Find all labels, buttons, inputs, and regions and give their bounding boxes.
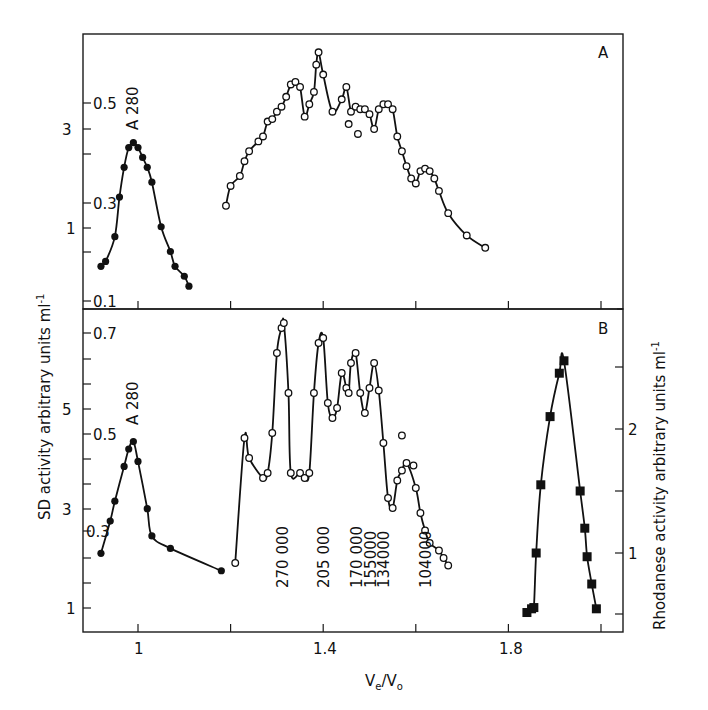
open-circle-marker [431,175,438,182]
open-circle-marker [237,173,244,180]
filled-square-marker [555,369,564,378]
filled-circle-marker [111,498,118,505]
open-circle-marker [352,350,359,357]
open-circle-marker [445,562,452,569]
mw-marker-label: 270 000 [274,526,292,588]
open-circle-marker [320,335,327,342]
open-circle-marker [399,432,406,439]
panel-a-letter: A [598,44,609,62]
open-circle-marker [325,400,332,407]
open-circle-marker [371,360,378,367]
open-circle-marker [338,370,345,377]
open-circle-marker [306,101,313,108]
open-circle-marker [389,505,396,512]
filled-circle-marker [148,179,155,186]
filled-square-marker [587,580,596,589]
filled-circle-marker [167,248,174,255]
open-circle-marker [260,133,267,140]
open-circle-marker [246,148,253,155]
open-circle-marker [287,470,294,477]
open-circle-marker [269,430,276,437]
open-circle-marker [297,84,304,91]
open-circle-marker [246,455,253,462]
open-circle-marker [394,133,401,140]
panel-a-frame [83,34,623,309]
open-circle-marker [223,202,230,209]
x-tick-label-1: 1 [134,640,144,658]
open-circle-marker [329,415,336,422]
filled-square-marker [576,487,585,496]
filled-circle-marker [130,438,137,445]
filled-circle-marker [218,567,225,574]
open-circle-marker [357,390,364,397]
filled-circle-marker [134,458,141,465]
open-circle-marker [315,49,322,56]
open-circle-marker [445,210,452,217]
x-axis-label: Ve/Vo [365,672,403,692]
open-circle-marker [301,113,308,120]
panel-b-a280-tick-03: 0.3 [86,523,110,541]
open-circle-marker [389,106,396,113]
open-circle-marker [482,245,489,252]
open-circle-marker [426,168,433,175]
filled-circle-marker [171,263,178,270]
filled-circle-marker [144,505,151,512]
open-circle-marker [399,148,406,155]
panel-b-right-tick-2: 2 [628,421,638,439]
filled-circle-marker [125,445,132,452]
panel-a-a280-tick-03: 0.3 [93,195,117,213]
open-circle-marker [436,188,443,195]
open-circle-marker [283,94,290,101]
filled-square-marker [583,552,592,561]
open-circle-marker [320,71,327,78]
open-circle-marker [278,103,285,110]
open-circle-marker [306,470,313,477]
open-circle-marker [380,440,387,447]
open-circle-marker [385,495,392,502]
open-circle-marker [440,555,447,562]
panel-a-a280-tick-05: 0.5 [93,95,117,113]
open-circle-marker [417,510,424,517]
filled-circle-marker [116,193,123,200]
panel-a-a280-tick-01: 0.1 [93,293,117,311]
open-circle-marker [436,547,443,554]
open-circle-marker [338,96,345,103]
open-circle-marker [362,410,369,417]
open-circle-marker [345,390,352,397]
panel-a-tick-1: 1 [66,220,76,238]
mw-marker-label: 104000 [417,531,435,588]
open-circle-marker [285,390,292,397]
filled-square-marker [532,549,541,558]
filled-circle-marker [139,154,146,161]
mw-marker-label: 205 000 [315,526,333,588]
filled-circle-marker [97,550,104,557]
filled-circle-marker [111,233,118,240]
filled-circle-marker [181,273,188,280]
molecular-weight-markers: 270 000205 000170 000155000134000104000 [274,526,436,588]
a280-label-panel-a: A 280 [124,86,142,130]
filled-circle-marker [121,463,128,470]
panel-a-tick-3: 3 [62,121,72,139]
figure: A B A 280 A 280 3 1 0.5 0.3 0.1 5 3 1 0.… [0,0,708,710]
open-circle-marker [366,111,373,118]
open-circle-marker [403,460,410,467]
filled-circle-marker [121,164,128,171]
filled-circle-marker [148,532,155,539]
open-circle-marker [399,467,406,474]
open-circle-marker [355,131,362,138]
open-circle-marker [366,385,373,392]
x-tick-label-1-4: 1.4 [313,640,337,658]
series-line [226,52,485,248]
left-axis-label: SD activity arbitrary units ml-1 [35,294,54,520]
filled-square-marker [546,412,555,421]
open-circle-marker [281,320,288,327]
series-line [101,441,221,571]
filled-square-marker [536,480,545,489]
filled-circle-marker [185,283,192,290]
panel-b-a280-tick-05: 0.5 [93,426,117,444]
open-circle-marker [334,405,341,412]
open-circle-marker [413,485,420,492]
open-circle-marker [311,390,318,397]
mw-marker-label: 134000 [375,531,393,588]
panel-b-letter: B [598,320,608,338]
